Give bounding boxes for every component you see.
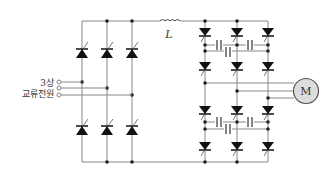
inductor: L: [160, 20, 268, 41]
input-label-line1: 3상: [40, 78, 54, 88]
input-label-line2: 교류전원: [22, 89, 54, 99]
ac-input: 3상 교류전원: [22, 78, 132, 99]
terminal-icon: [57, 93, 61, 97]
motor-label: M: [300, 85, 311, 98]
inverter: [199, 19, 294, 164]
terminal-icon: [57, 86, 61, 90]
circuit-diagram: 3상 교류전원 L: [0, 0, 336, 175]
rectifier-bridge: [76, 19, 205, 164]
motor: M: [294, 79, 319, 104]
inductor-label: L: [164, 28, 172, 41]
terminal-icon: [57, 80, 61, 84]
inductor-icon: [160, 20, 180, 21]
